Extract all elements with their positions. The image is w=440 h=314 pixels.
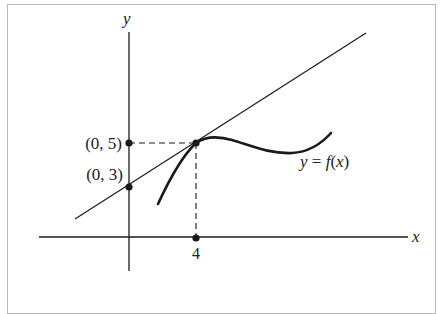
tangent-line <box>75 33 366 219</box>
curve-label-close: ) <box>344 152 350 171</box>
curve-label-y: y <box>298 152 308 171</box>
point-x-4 <box>192 234 199 241</box>
point-0-3 <box>125 183 132 190</box>
tangent-point <box>192 139 199 146</box>
y-axis-label: y <box>121 9 131 28</box>
tick-label-4: 4 <box>192 245 200 262</box>
point-0-5 <box>125 139 132 146</box>
curve-label: y = f(x) <box>298 152 349 171</box>
point-label-0-3: (0, 3) <box>86 165 123 184</box>
x-axis-label: x <box>411 227 420 246</box>
curve-label-eq: = <box>308 152 326 171</box>
point-label-0-5: (0, 5) <box>85 134 122 153</box>
